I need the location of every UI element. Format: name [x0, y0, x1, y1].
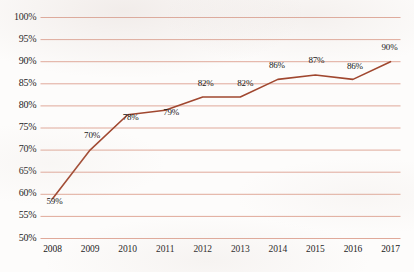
y-axis-tick-label: 75% [19, 121, 37, 132]
x-axis-tick-label: 2010 [108, 244, 148, 254]
x-axis-tick-label: 2016 [333, 244, 373, 254]
y-axis-tick-label: 55% [19, 209, 37, 220]
x-axis-tick-label: 2012 [183, 244, 223, 254]
data-point-label: 87% [300, 55, 332, 65]
data-point-label: 82% [190, 78, 222, 88]
x-axis-tick-label: 2015 [295, 244, 335, 254]
x-axis-tick-label: 2011 [145, 244, 185, 254]
data-point-label: 59% [39, 196, 71, 206]
x-axis-tick-label: 2008 [33, 244, 73, 254]
x-axis-tick-label: 2013 [220, 244, 260, 254]
y-axis-tick-label: 100% [14, 11, 37, 22]
y-axis-tick-label: 70% [19, 143, 37, 154]
y-axis-tick-label: 80% [19, 99, 37, 110]
line-chart: 50%55%60%65%70%75%80%85%90%95%100% 20082… [0, 0, 414, 272]
chart-plot-area [0, 0, 414, 272]
y-axis-tick-label: 90% [19, 55, 37, 66]
y-axis-tick-label: 85% [19, 77, 37, 88]
y-axis-tick-label: 60% [19, 187, 37, 198]
data-point-label: 78% [115, 112, 147, 122]
x-axis-tick-label: 2009 [70, 244, 110, 254]
y-axis-tick-label: 65% [19, 165, 37, 176]
data-point-label: 86% [339, 61, 371, 71]
y-axis-tick-label: 50% [19, 232, 37, 243]
data-point-label: 86% [261, 60, 293, 70]
x-axis-tick-label: 2014 [258, 244, 298, 254]
x-axis-tick-label: 2017 [371, 244, 411, 254]
data-point-label: 70% [76, 130, 108, 140]
data-point-label: 82% [229, 78, 261, 88]
gridline-group [41, 18, 401, 239]
data-point-label: 79% [155, 107, 187, 117]
y-axis-tick-label: 95% [19, 33, 37, 44]
data-point-label: 90% [374, 42, 406, 52]
